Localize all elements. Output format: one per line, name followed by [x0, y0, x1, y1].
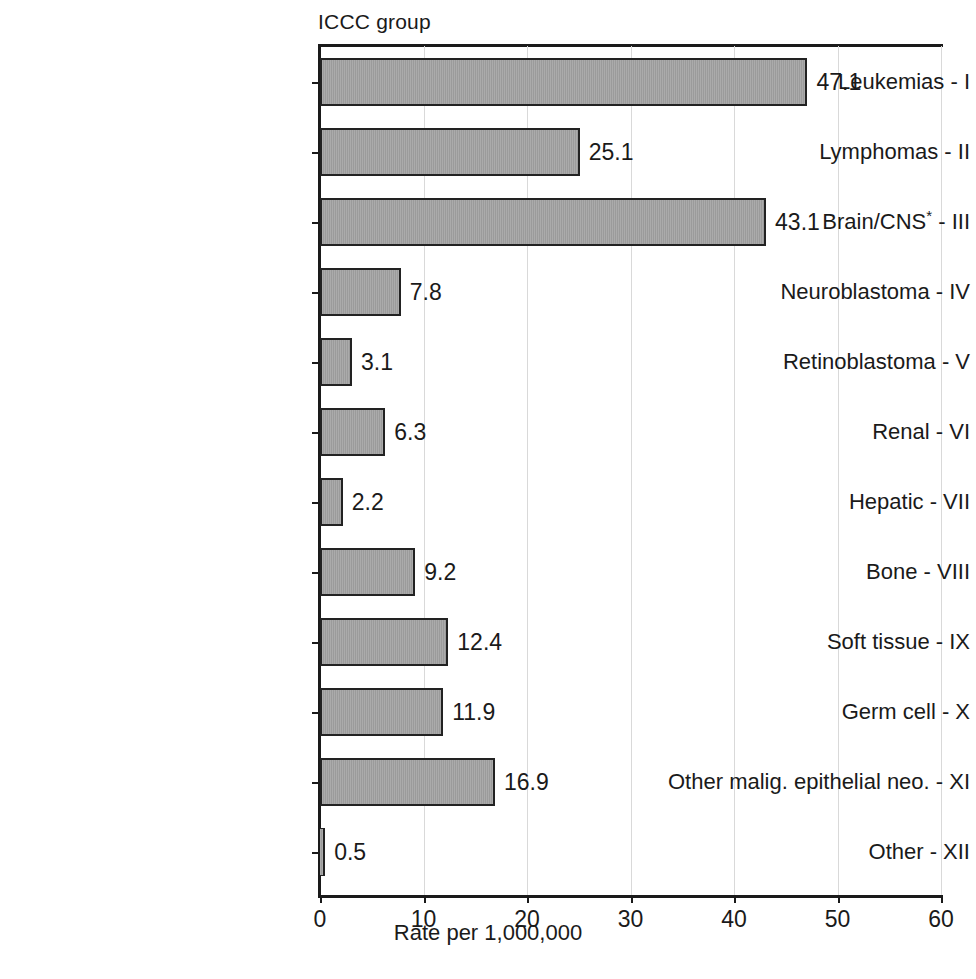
bar-value-label: 16.9 [504, 758, 549, 806]
x-axis-tick [734, 895, 736, 903]
bar-value-label: 2.2 [352, 478, 384, 526]
y-axis-tick [312, 222, 320, 224]
y-axis-category-label: Other malig. epithelial neo. - XI [668, 758, 976, 806]
y-axis-category-label: Germ cell - X [668, 688, 976, 736]
bar-value-label: 0.5 [334, 828, 366, 876]
x-axis-tick [424, 895, 426, 903]
bar-chart-figure: ICCC group 0102030405060 47.125.143.17.8… [0, 0, 976, 979]
y-axis-tick [312, 712, 320, 714]
bar[interactable] [320, 408, 385, 456]
x-axis-tick [320, 895, 322, 903]
y-axis-category-label: Other - XII [668, 828, 976, 876]
y-axis-category-label: Soft tissue - IX [668, 618, 976, 666]
x-axis-tick [631, 895, 633, 903]
bar[interactable] [320, 758, 495, 806]
footnote-marker: * [926, 207, 932, 224]
y-axis-category-label: Lymphomas - II [668, 128, 976, 176]
bar-value-label: 25.1 [589, 128, 634, 176]
bar-value-label: 6.3 [394, 408, 426, 456]
bar-value-label: 3.1 [361, 338, 393, 386]
y-axis-category-label: Brain/CNS* - III [668, 198, 976, 246]
y-axis-category-label: Renal - VI [668, 408, 976, 456]
x-axis-tick [838, 895, 840, 903]
x-axis-tick [941, 895, 943, 903]
y-axis-tick [312, 152, 320, 154]
bar-value-label: 9.2 [424, 548, 456, 596]
y-axis-category-label: Retinoblastoma - V [668, 338, 976, 386]
y-axis-tick [312, 572, 320, 574]
x-axis-tick [527, 895, 529, 903]
y-axis-category-label: Bone - VIII [668, 548, 976, 596]
bar[interactable] [320, 268, 401, 316]
bar-value-label: 11.9 [452, 688, 495, 736]
y-axis-category-label: Hepatic - VII [668, 478, 976, 526]
y-axis-tick [312, 292, 320, 294]
x-axis-label: Rate per 1,000,000 [0, 920, 976, 946]
y-axis-tick [312, 502, 320, 504]
y-axis-tick [312, 642, 320, 644]
bar[interactable] [320, 478, 343, 526]
bar[interactable] [320, 128, 580, 176]
y-axis-title: ICCC group [318, 10, 431, 34]
bar-value-label: 12.4 [457, 618, 502, 666]
bar[interactable] [320, 338, 352, 386]
bar[interactable] [320, 618, 448, 666]
y-axis-tick [312, 82, 320, 84]
y-axis-tick [312, 852, 320, 854]
bar-value-label: 7.8 [410, 268, 442, 316]
bar[interactable] [320, 828, 325, 876]
y-axis-category-label: Leukemias - I [668, 58, 976, 106]
bar[interactable] [320, 688, 443, 736]
y-axis-tick [312, 432, 320, 434]
y-axis-tick [312, 782, 320, 784]
y-axis-tick [312, 362, 320, 364]
y-axis-category-label: Neuroblastoma - IV [668, 268, 976, 316]
bar[interactable] [320, 548, 415, 596]
